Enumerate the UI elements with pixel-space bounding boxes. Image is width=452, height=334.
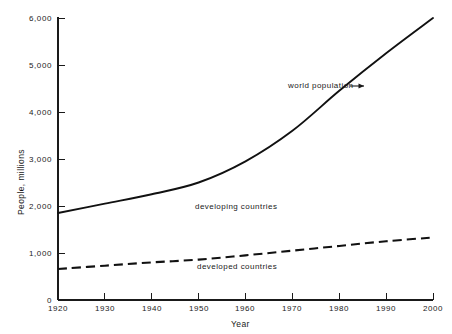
x-tick-label-1970: 1970 <box>274 304 310 313</box>
y-tick-label-3000: 3,000 <box>6 155 52 164</box>
x-tick-label-1990: 1990 <box>368 304 404 313</box>
y-tick-label-4000: 4,000 <box>6 108 52 117</box>
y-tick-label-5000: 5,000 <box>6 61 52 70</box>
y-axis-ticks <box>58 18 65 253</box>
x-tick-label-1980: 1980 <box>321 304 357 313</box>
x-tick-label-1930: 1930 <box>87 304 123 313</box>
population-chart-figure: 0 1,000 2,000 3,000 4,000 5,000 6,000 19… <box>0 0 452 334</box>
x-axis-ticks <box>58 293 433 300</box>
y-axis-title: People, millions <box>16 149 26 215</box>
annotation-world-population: world population <box>288 81 353 90</box>
series-line-world-population <box>58 18 433 213</box>
x-axis-title: Year <box>231 319 250 329</box>
y-tick-label-2000: 2,000 <box>6 202 52 211</box>
y-tick-label-1000: 1,000 <box>6 249 52 258</box>
x-tick-label-1950: 1950 <box>181 304 217 313</box>
x-tick-label-2000: 2000 <box>415 304 451 313</box>
annotation-developed-countries: developed countries <box>197 262 277 271</box>
x-tick-label-1960: 1960 <box>227 304 263 313</box>
chart-plot-area <box>0 0 452 334</box>
x-tick-label-1940: 1940 <box>134 304 170 313</box>
annotation-developing-countries: developing countries <box>195 202 277 211</box>
y-tick-label-6000: 6,000 <box>6 14 52 23</box>
x-tick-label-1920: 1920 <box>40 304 76 313</box>
